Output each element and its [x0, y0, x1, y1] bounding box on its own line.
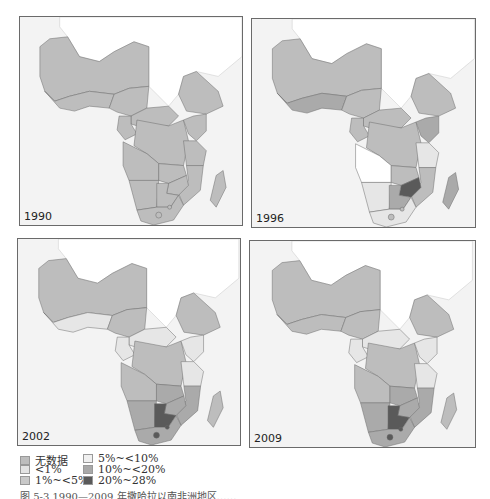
- legend-swatch: [83, 476, 93, 485]
- map-panel-2002: 2002: [17, 238, 241, 446]
- panel-year-label: 2009: [254, 432, 282, 445]
- africa-map-1990: [20, 17, 242, 225]
- panel-year-label: 2002: [22, 430, 50, 443]
- legend-label: 20%~28%: [98, 474, 156, 487]
- legend-swatch: [20, 476, 30, 485]
- africa-map-2009: [250, 241, 475, 447]
- legend-swatch: [83, 465, 93, 474]
- map-panel-1996: 1996: [251, 18, 476, 228]
- figure-caption: 图 5-3 1990—2009 年撒哈拉以南非洲地区……: [20, 488, 237, 499]
- africa-map-1996: [252, 19, 475, 227]
- panel-year-label: 1990: [24, 210, 52, 223]
- legend-item-1to5: 1%~<5%: [20, 474, 88, 487]
- panel-year-label: 1996: [256, 212, 284, 225]
- legend-swatch: [20, 465, 30, 474]
- map-panel-1990: 1990: [19, 16, 243, 226]
- map-panel-2009: 2009: [249, 240, 476, 448]
- legend-item-20to28: 20%~28%: [83, 474, 156, 487]
- africa-map-2002: [18, 239, 240, 445]
- legend-label: 1%~<5%: [35, 474, 88, 487]
- legend-swatch: [83, 454, 93, 463]
